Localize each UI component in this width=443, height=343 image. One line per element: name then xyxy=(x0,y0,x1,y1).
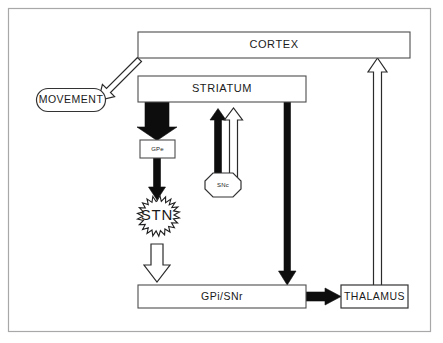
node-striatum[interactable]: STRIATUM xyxy=(138,76,306,102)
gpe-label: GPe xyxy=(151,146,164,152)
striatum-label: STRIATUM xyxy=(192,82,252,94)
connection-thalamus-to-cortex xyxy=(368,58,387,286)
movement-label: MOVEMENT xyxy=(39,93,104,105)
gpi-snr-label: GPi/SNr xyxy=(201,290,243,302)
connection-gpe-to-stn xyxy=(149,158,166,200)
node-stn[interactable]: STN xyxy=(138,196,180,237)
thalamus-label: THALAMUS xyxy=(344,290,405,302)
diagram-canvas: CORTEX MOVEMENT STRIATUM GPe STN SNc xyxy=(0,0,443,343)
snc-label: SNc xyxy=(217,182,229,188)
connection-stn-to-gpi-snr xyxy=(144,244,170,282)
node-cortex[interactable]: CORTEX xyxy=(138,32,410,58)
node-gpe[interactable]: GPe xyxy=(140,140,175,158)
stn-label: STN xyxy=(141,206,173,223)
node-snc[interactable]: SNc xyxy=(205,173,241,197)
cortex-label: CORTEX xyxy=(249,38,298,50)
basal-ganglia-diagram: CORTEX MOVEMENT STRIATUM GPe STN SNc xyxy=(0,0,443,343)
node-movement[interactable]: MOVEMENT xyxy=(37,89,106,112)
connection-cortex-to-movement xyxy=(99,58,142,101)
node-gpi-snr[interactable]: GPi/SNr xyxy=(138,285,306,308)
node-thalamus[interactable]: THALAMUS xyxy=(341,285,408,308)
connection-striatum-to-gpe xyxy=(137,101,177,141)
connection-striatum-to-gpi-snr xyxy=(279,101,297,285)
